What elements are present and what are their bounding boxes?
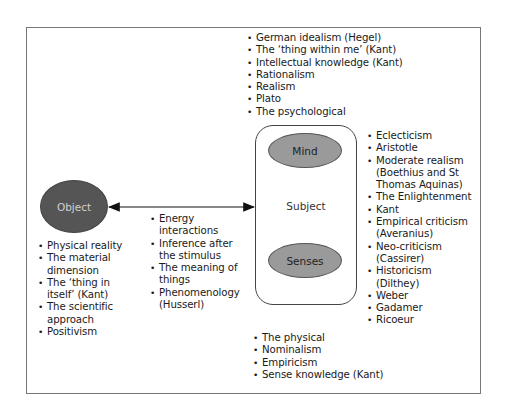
subject-associations-list: EclecticismAristotleModerate realism (Bo… bbox=[367, 130, 471, 327]
list-item: The ‘thing within me’ (Kant) bbox=[247, 44, 403, 56]
list-item: The ‘thing in itself’ (Kant) bbox=[38, 277, 122, 302]
interaction-associations-list: Energy interactionsInference after the s… bbox=[150, 213, 240, 311]
mind-label: Mind bbox=[292, 145, 317, 157]
mind-node: Mind bbox=[268, 133, 342, 168]
list-item: The material dimension bbox=[38, 252, 122, 277]
list-item: Empirical criticism (Averanius) bbox=[367, 216, 471, 241]
list-item: Weber bbox=[367, 290, 471, 302]
list-item: Realism bbox=[247, 81, 403, 93]
subject-label: Subject bbox=[255, 200, 357, 212]
list-item: Eclecticism bbox=[367, 130, 471, 142]
list-item: Kant bbox=[367, 204, 471, 216]
list-item: The scientific approach bbox=[38, 301, 122, 326]
list-item: Plato bbox=[247, 93, 403, 105]
list-item: Neo-criticism (Cassirer) bbox=[367, 241, 471, 266]
list-item: Gadamer bbox=[367, 302, 471, 314]
object-label: Object bbox=[57, 201, 91, 213]
list-item: Ricoeur bbox=[367, 314, 471, 326]
list-item: The physical bbox=[253, 332, 383, 344]
list-item: Physical reality bbox=[38, 240, 122, 252]
list-item: Sense knowledge (Kant) bbox=[253, 369, 383, 381]
list-item: Energy interactions bbox=[150, 213, 240, 238]
object-node: Object bbox=[40, 180, 108, 233]
list-item: German idealism (Hegel) bbox=[247, 32, 403, 44]
senses-node: Senses bbox=[268, 243, 342, 278]
list-item: Moderate realism (Boethius and St Thomas… bbox=[367, 155, 471, 192]
list-item: Nominalism bbox=[253, 344, 383, 356]
list-item: The Enlightenment bbox=[367, 191, 471, 203]
senses-label: Senses bbox=[286, 255, 323, 267]
senses-associations-list: The physicalNominalismEmpiricismSense kn… bbox=[253, 332, 383, 381]
list-item: The psychological bbox=[247, 106, 403, 118]
list-item: Inference after the stimulus bbox=[150, 238, 240, 263]
list-item: Rationalism bbox=[247, 69, 403, 81]
mind-associations-list: German idealism (Hegel)The ‘thing within… bbox=[247, 32, 403, 118]
list-item: Aristotle bbox=[367, 142, 471, 154]
list-item: Phenomenology (Husserl) bbox=[150, 287, 240, 312]
list-item: Intellectual knowledge (Kant) bbox=[247, 57, 403, 69]
list-item: Empiricism bbox=[253, 357, 383, 369]
list-item: Positivism bbox=[38, 326, 122, 338]
object-associations-list: Physical realityThe material dimensionTh… bbox=[38, 240, 122, 338]
list-item: Historicism (Dilthey) bbox=[367, 265, 471, 290]
list-item: The meaning of things bbox=[150, 262, 240, 287]
